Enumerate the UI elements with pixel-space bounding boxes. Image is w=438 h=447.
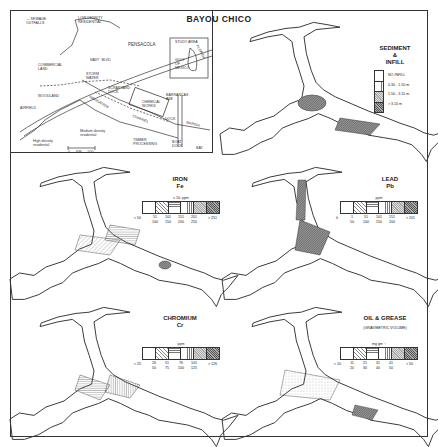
legend-swatch xyxy=(374,102,384,114)
inset-label: CHEMICAL WORKS xyxy=(142,100,161,108)
inset-label: TIMBER PROCESSING xyxy=(133,138,157,146)
inset-label: BAY xyxy=(196,146,203,150)
chromium-legend: ppm < 25 26 50 51 75 76 100 101 125 > 12… xyxy=(142,342,220,372)
inset-label: WOODLAND xyxy=(38,94,59,98)
legend-label: 0.30 - 1.50 m xyxy=(388,83,409,87)
sewage-outfalls-legend: ← SEWAGE OUTFALLS xyxy=(26,17,46,25)
scale-bar: 0 km 500 xyxy=(68,150,93,154)
chromium-title: CHROMIUM Cr xyxy=(150,315,210,329)
lead-legend: ppm 0 1 50 51 100 101 150 151 200 > 201 xyxy=(340,196,418,226)
inset-label: STORM WATER xyxy=(86,72,99,80)
inset-label: Medium density residential xyxy=(80,129,105,137)
legend-label: NO INFILL xyxy=(388,73,405,77)
oil-grease-legend: mg gm⁻¹ < 10 11 20 21 30 31 40 41 50 > 5… xyxy=(340,342,418,372)
legend-swatch xyxy=(374,70,384,81)
inset-label: Low density residential xyxy=(78,16,103,24)
oil-grease-subtitle: (GRAVIMETRIC VOLUME) xyxy=(340,326,430,330)
locator-label: GULF OF MEXICO xyxy=(175,58,189,70)
inset-label: BOAT DOCK xyxy=(172,140,182,148)
inset-label: SCRAPYARD DOCK xyxy=(108,86,130,94)
inset-label: PENSACOLA xyxy=(128,43,156,47)
inset-map-drawing xyxy=(20,18,212,150)
legend-swatch xyxy=(374,91,384,102)
locator-label: STUDY AREA xyxy=(175,40,198,44)
legend-label: > 3.10 m xyxy=(388,102,402,106)
inset-label: DOCK xyxy=(165,117,175,121)
oil-grease-title: OIL & GREASE xyxy=(340,315,430,322)
lead-title: LEAD Pb xyxy=(370,176,410,190)
iron-title: IRON Fe xyxy=(160,176,200,190)
sediment-title: SEDIMENT & INFILL xyxy=(360,45,430,66)
sediment-legend xyxy=(374,70,384,113)
iron-legend: x 10³ ppm < 50 51 100 101 150 151 200 20… xyxy=(142,196,220,226)
inset-label: AIRFIELD xyxy=(20,106,36,110)
legend-label: 1.50 - 3.10 m xyxy=(388,92,409,96)
legend-swatch xyxy=(374,81,384,92)
inset-label: COMMERCIAL LAND xyxy=(38,63,62,71)
inset-label: NAVY BLVD xyxy=(90,58,111,62)
inset-label: BARRANCAS AVE xyxy=(166,93,188,101)
inset-label: High density residential xyxy=(33,139,53,147)
